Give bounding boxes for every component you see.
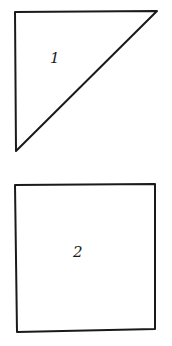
diagram-canvas	[0, 0, 172, 346]
square-label: 2	[73, 245, 83, 260]
triangle-label: 1	[50, 51, 60, 66]
triangle-shape	[15, 11, 157, 151]
square-shape	[15, 184, 155, 332]
